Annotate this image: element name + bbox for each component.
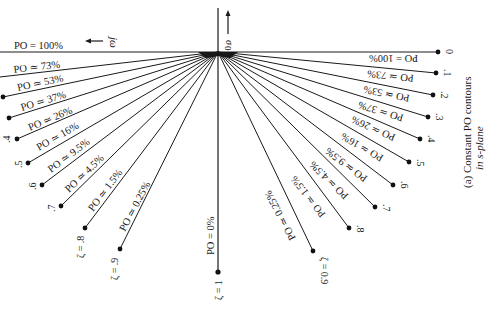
left-zeta-label: .6 [27, 183, 38, 191]
left-zeta-label: ζ = .8 [75, 236, 87, 258]
right-po-label: PO ≃ 53% [362, 84, 410, 104]
left-zeta-label: .7 [46, 205, 57, 213]
left-po-label: PO ≃ 0.25% [117, 179, 152, 233]
zero-po-label: PO = 0% [205, 216, 216, 255]
right-zeta-label: .6 [399, 181, 410, 189]
left-zeta-label: .5 [13, 161, 24, 169]
origin-label: 0 [223, 46, 233, 51]
right-po-label: PO = 100% [369, 53, 418, 64]
right-zeta-label: 0 [444, 49, 455, 54]
right-po-label: PO ≃ 0.25% [262, 189, 297, 243]
left-zeta-label: .4 [1, 136, 12, 144]
right-po-label: PO ≃ 73% [366, 69, 414, 84]
right-zeta-label: .3 [434, 113, 445, 121]
caption-line-2: in s-plane [473, 126, 485, 170]
left-zeta-label: ζ = .9 [109, 258, 121, 280]
right-zeta-label: .8 [355, 225, 366, 233]
right-zeta-label: .7 [381, 204, 392, 212]
right-zeta-label: ζ = 0.9 [318, 257, 330, 284]
jw-label: jω [108, 35, 120, 48]
right-zeta-label: .4 [426, 135, 437, 143]
po-contour-diagram: σ 0 jω [0, 0, 498, 309]
right-zeta-label: .1 [442, 69, 453, 77]
sigma-arrow-icon [226, 10, 231, 34]
right-zeta-label: .5 [415, 159, 426, 167]
zeta-one-label: ζ = 1 [213, 280, 225, 300]
jw-arrow-icon [85, 39, 103, 44]
left-po-label: PO = 100% [14, 40, 63, 51]
right-zeta-label: .2 [439, 91, 450, 99]
